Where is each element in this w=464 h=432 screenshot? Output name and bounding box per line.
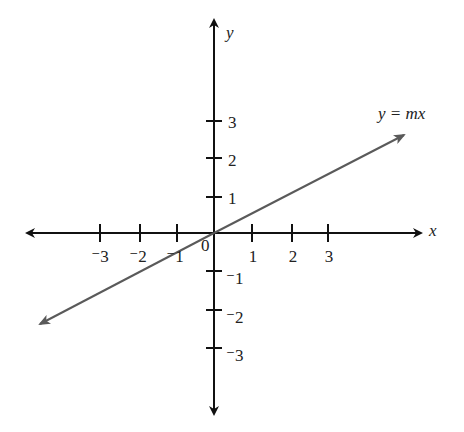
y-tick-label: ⁻3 — [226, 346, 243, 365]
x-tick-label: ⁻1 — [166, 247, 183, 266]
y-tick-label: ⁻2 — [226, 308, 243, 327]
x-tick-label: ⁻2 — [129, 247, 146, 266]
x-tick-label: ⁻3 — [91, 247, 108, 266]
coordinate-plane: ⁻3 ⁻2 ⁻1 1 2 3 3 2 1 ⁻1 ⁻2 ⁻3 0 x y y = … — [0, 0, 464, 432]
line-label: y = mx — [376, 104, 426, 123]
x-tick-label: 3 — [325, 247, 334, 266]
y-axis-label: y — [224, 23, 234, 42]
y-tick-label: 1 — [228, 189, 237, 208]
x-tick-label: 1 — [249, 247, 258, 266]
origin-label: 0 — [201, 236, 210, 255]
y-tick-label: 2 — [228, 151, 237, 170]
y-tick-label: 3 — [228, 113, 237, 132]
y-tick-label: ⁻1 — [226, 269, 243, 288]
line-y-equals-mx — [40, 135, 404, 324]
x-tick-label: 2 — [289, 247, 298, 266]
x-axis-label: x — [428, 221, 437, 240]
